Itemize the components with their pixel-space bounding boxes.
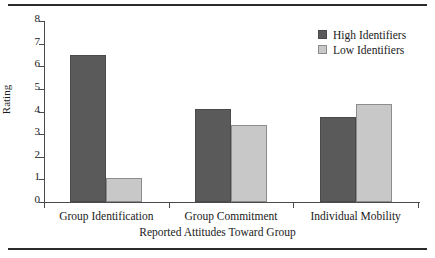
bottom-rule — [8, 248, 427, 250]
y-tick-2: 2 — [44, 157, 45, 158]
y-tick-7: 7 — [44, 44, 45, 45]
legend-item-high-identifiers: High Identifiers — [318, 27, 406, 42]
top-rule — [8, 4, 427, 6]
figure: Rating 012345678 Group IdentificationGro… — [0, 0, 435, 258]
y-tick-1: 1 — [44, 179, 45, 180]
x-axis-title: Reported Attitudes Toward Group — [0, 226, 435, 239]
x-tick-label-2: Group Commitment — [161, 210, 301, 223]
x-tick-mark — [44, 202, 45, 208]
bar-high-identifiers-1 — [70, 55, 106, 202]
y-tick-label: 2 — [35, 149, 41, 160]
x-tick-mark — [169, 202, 170, 208]
y-tick-5: 5 — [44, 89, 45, 90]
bar-low-identifiers-3 — [356, 104, 392, 202]
y-tick-4: 4 — [44, 112, 45, 113]
x-tick-mark — [418, 202, 419, 208]
y-tick-3: 3 — [44, 134, 45, 135]
y-tick-8: 8 — [44, 21, 45, 22]
legend-label: Low Identifiers — [333, 44, 404, 56]
y-tick-6: 6 — [44, 66, 45, 67]
legend: High IdentifiersLow Identifiers — [318, 27, 406, 57]
x-tick-mark — [293, 202, 294, 208]
x-tick-label-1: Group Identification — [36, 210, 176, 223]
x-tick-label-3: Individual Mobility — [286, 210, 426, 223]
legend-swatch-icon — [318, 30, 327, 39]
x-axis-line — [44, 202, 420, 203]
y-tick-label: 7 — [35, 36, 41, 47]
legend-item-low-identifiers: Low Identifiers — [318, 42, 406, 57]
legend-swatch-icon — [318, 45, 327, 54]
bar-high-identifiers-2 — [195, 109, 231, 202]
y-tick-label: 4 — [35, 104, 41, 115]
y-tick-label: 3 — [35, 126, 41, 137]
y-tick-label: 6 — [35, 58, 41, 69]
bar-high-identifiers-3 — [320, 117, 356, 202]
y-tick-label: 5 — [35, 81, 41, 92]
y-tick-label: 0 — [35, 194, 41, 205]
y-axis-title: Rating — [1, 70, 12, 130]
bar-low-identifiers-1 — [106, 178, 142, 202]
y-tick-label: 1 — [35, 171, 41, 182]
y-tick-label: 8 — [35, 13, 41, 24]
legend-label: High Identifiers — [333, 29, 406, 41]
bar-low-identifiers-2 — [231, 125, 267, 202]
